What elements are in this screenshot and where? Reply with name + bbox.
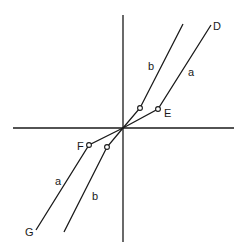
- label-D: D: [213, 20, 221, 32]
- diagram-canvas: D E F G b a a b: [0, 0, 244, 246]
- knee-point-E: [156, 107, 161, 112]
- curve-b-lower: [64, 128, 123, 232]
- label-E: E: [164, 107, 171, 119]
- label-G: G: [25, 226, 34, 238]
- label-F: F: [77, 140, 84, 152]
- knee-point-b-lower: [105, 145, 110, 150]
- label-a-lower: a: [55, 175, 62, 187]
- label-b-lower: b: [92, 190, 98, 202]
- knee-point-F: [87, 143, 92, 148]
- label-a-upper: a: [188, 66, 195, 78]
- knee-point-b-upper: [138, 106, 143, 111]
- label-b-upper: b: [148, 60, 154, 72]
